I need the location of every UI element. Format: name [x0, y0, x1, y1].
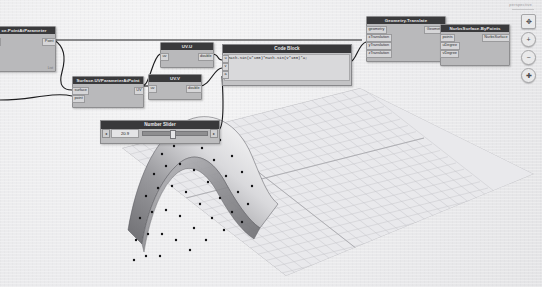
port-in-u[interactable]: u	[222, 55, 229, 63]
port-in-uv[interactable]: uv	[0, 38, 1, 46]
node-surface-uvparameter-at-point[interactable]: Surface.UVParameterAtPoint surface point…	[72, 76, 144, 108]
node-title: UV.U	[161, 43, 213, 50]
port-out-nurbssurface[interactable]: NurbsSurface	[482, 34, 510, 42]
zoom-out-button[interactable]: −	[521, 50, 536, 65]
slider-increment-button[interactable]: ▸	[210, 129, 218, 138]
node-title: Geometry.Translate	[367, 17, 445, 24]
navigation-toolbar[interactable]: ✥ + − ✚	[521, 14, 536, 83]
geometry-preview[interactable]	[110, 78, 540, 287]
node-nurbssurface-bypoints[interactable]: NurbsSurface.ByPoints points uDegree vDe…	[440, 24, 510, 66]
zoom-in-button[interactable]: +	[521, 32, 536, 47]
port-in-surface[interactable]: surface	[72, 87, 89, 95]
node-surface-point-at-parameter[interactable]: ce.PointAtParameter uv Point List	[0, 26, 56, 72]
code-block-node[interactable]: Code Block Math.Sin(u*100)*Math.Sin(v*10…	[222, 44, 352, 86]
port-in-a[interactable]: a	[222, 71, 229, 79]
port-out-double[interactable]: double	[198, 53, 214, 61]
slider-decrement-button[interactable]: ◂	[102, 129, 110, 138]
viewport-divider	[512, 9, 534, 10]
node-title: NurbsSurface.ByPoints	[441, 25, 509, 32]
port-in-points[interactable]: points	[440, 34, 455, 42]
port-out-uv[interactable]: UV	[134, 87, 144, 95]
node-footer: List	[48, 66, 53, 70]
slider-track[interactable]	[142, 131, 208, 136]
dynamo-canvas[interactable]: ce.PointAtParameter uv Point List Surfac…	[0, 0, 542, 287]
number-slider-title: Number Slider	[101, 121, 219, 129]
node-title: UV.V	[149, 75, 201, 82]
node-uv-u[interactable]: UV.U uv double	[160, 42, 214, 68]
code-block-title: Code Block	[223, 45, 351, 53]
port-in-ztranslation[interactable]: zTranslation	[366, 50, 392, 58]
node-uv-v[interactable]: UV.V uv double	[148, 74, 202, 100]
node-geometry-translate[interactable]: Geometry.Translate geometry xTranslation…	[366, 16, 446, 62]
port-in-udegree[interactable]: uDegree	[440, 42, 460, 50]
port-in-ytranslation[interactable]: yTranslation	[366, 42, 392, 50]
code-block-line-1: Math.Sin(u*100)*Math.Sin(v*100)*a;	[228, 56, 307, 61]
port-out-double[interactable]: double	[186, 85, 202, 93]
viewport-label: perspective	[509, 2, 532, 7]
node-title: Surface.UVParameterAtPoint	[73, 77, 143, 84]
port-in-geometry[interactable]: geometry	[366, 26, 387, 34]
number-slider-node[interactable]: Number Slider ◂ 20.9 ▸	[100, 120, 220, 144]
port-out-point[interactable]: Point	[42, 38, 56, 46]
port-in-vdegree[interactable]: vDegree	[440, 50, 459, 58]
fit-to-screen-button[interactable]: ✥	[521, 14, 536, 29]
node-title: ce.PointAtParameter	[0, 27, 55, 34]
port-in-point[interactable]: point	[72, 95, 85, 103]
slider-value-field[interactable]: 20.9	[111, 129, 139, 138]
pan-button[interactable]: ✚	[521, 68, 536, 83]
port-in-xtranslation[interactable]: xTranslation	[366, 34, 392, 42]
slider-thumb[interactable]	[170, 130, 176, 139]
ground-grid	[122, 88, 534, 276]
port-in-uv[interactable]: uv	[148, 85, 157, 93]
port-in-uv[interactable]: uv	[160, 53, 169, 61]
code-block-editor[interactable]: Math.Sin(u*100)*Math.Sin(v*100)*a;	[224, 54, 350, 81]
port-in-v[interactable]: v	[222, 63, 229, 71]
